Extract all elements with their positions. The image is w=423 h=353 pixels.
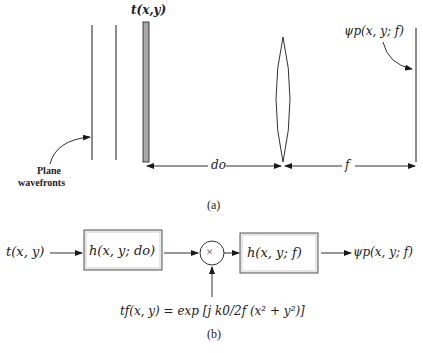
- transparency-plate: [143, 22, 149, 162]
- wavefront-label-line2: wavefronts: [18, 177, 65, 188]
- caption-a: (a): [207, 198, 220, 213]
- input-transparency-label: t(x,y): [131, 3, 166, 17]
- block-output-label: ψp(x, y; f): [353, 245, 413, 259]
- block-input-label: t(x, y): [6, 244, 44, 259]
- block2-label: h(x, y; f): [247, 245, 302, 260]
- convex-lens: [276, 37, 290, 162]
- wavefront-label-line1: Plane: [37, 165, 61, 176]
- multiplier-symbol: ×: [206, 244, 213, 260]
- wavefront-pointer-arrow: [50, 137, 90, 164]
- distance-f-label: f: [345, 158, 349, 172]
- distance-do-label: do: [211, 158, 226, 172]
- output-field-label: ψp(x, y; f): [344, 24, 404, 38]
- lens-function-equation: tf(x, y) = exp [j k0/2f (x² + y²)]: [120, 304, 305, 318]
- caption-b: (b): [207, 327, 221, 342]
- block1-label: h(x, y; do): [89, 243, 155, 258]
- output-pointer-arrow: [383, 42, 412, 69]
